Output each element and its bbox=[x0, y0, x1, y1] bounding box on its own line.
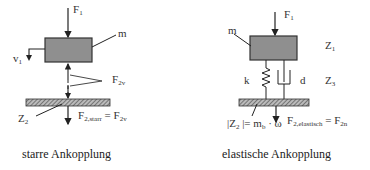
force-out-label: F2,elastisch = F2n bbox=[287, 115, 347, 128]
diagram-canvas bbox=[0, 0, 370, 170]
caption-elastic: elastische Ankopplung bbox=[222, 148, 331, 160]
spring-force-wedge bbox=[70, 75, 102, 86]
left-rigid-coupling-diagram bbox=[26, 8, 116, 124]
mass-block bbox=[250, 36, 297, 60]
velocity-label: v1 bbox=[13, 53, 22, 66]
velocity-arrow bbox=[29, 49, 45, 56]
mass-label: m bbox=[118, 28, 127, 39]
spring bbox=[262, 68, 270, 87]
impedance-formula: |Z2 |= mb · ω bbox=[227, 118, 282, 131]
z1-label: Z1 bbox=[325, 40, 335, 53]
force-out-label: F2,starr = F2v bbox=[78, 110, 127, 123]
mass-block bbox=[45, 38, 92, 62]
right-elastic-coupling-diagram bbox=[234, 12, 309, 122]
force-f1-label: F1 bbox=[73, 4, 83, 17]
spring-k-label: k bbox=[244, 75, 250, 86]
impedance-z2-label: Z2 bbox=[18, 113, 28, 126]
mass-label: m bbox=[228, 25, 237, 36]
base-plate bbox=[239, 99, 309, 106]
z3-label: Z3 bbox=[325, 75, 335, 88]
force-f1-label: F1 bbox=[284, 9, 294, 22]
caption-rigid: starre Ankopplung bbox=[22, 148, 111, 160]
spring-force-label: F2v bbox=[112, 74, 125, 87]
mass-leader-line bbox=[92, 35, 116, 47]
damper-d-label: d bbox=[300, 75, 306, 86]
base-plate bbox=[26, 99, 110, 106]
